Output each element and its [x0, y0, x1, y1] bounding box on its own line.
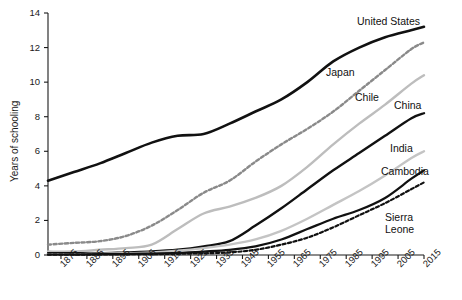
chart-axes [44, 13, 424, 259]
y-tick-label: 8 [22, 112, 40, 122]
series-label-united-states: United States [357, 16, 420, 28]
y-tick-label: 10 [22, 77, 40, 87]
series-line-united-states [48, 27, 424, 181]
series-label-japan: Japan [326, 67, 355, 79]
schooling-line-chart: Years of schooling 02468101214 187518851… [0, 0, 462, 300]
y-axis-title: Years of schooling [9, 101, 20, 182]
chart-series [48, 27, 424, 255]
series-label-india: India [390, 143, 413, 155]
y-tick-label: 14 [22, 8, 40, 18]
y-tick-label: 12 [22, 43, 40, 53]
series-label-chile: Chile [355, 92, 379, 104]
series-line-china [48, 113, 424, 253]
series-label-cambodia: Cambodia [381, 166, 429, 178]
y-tick-label: 2 [22, 215, 40, 225]
series-line-japan [48, 42, 424, 244]
series-label-china: China [394, 100, 421, 112]
y-tick-label: 4 [22, 181, 40, 191]
y-tick-label: 6 [22, 146, 40, 156]
series-label-sierra-leone: SierraLeone [385, 212, 414, 236]
y-tick-label: 0 [22, 250, 40, 260]
